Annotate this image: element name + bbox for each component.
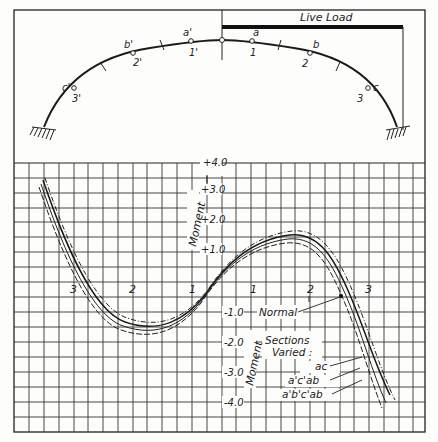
legend-a-prime-c-prime-ab-label: a'c'ab	[288, 374, 319, 386]
label-b: b	[313, 39, 319, 50]
section-label-2-right: 2	[307, 283, 314, 296]
point-b-prime	[131, 51, 136, 56]
right-fixed-support-icon	[386, 126, 410, 140]
label-1-prime: 1'	[189, 47, 198, 58]
legend-normal-label: Normal	[259, 306, 297, 318]
label-2-prime: 2'	[133, 57, 142, 68]
arch-curve	[44, 40, 397, 127]
label-b-prime: b'	[124, 39, 133, 50]
normal-marker	[339, 294, 343, 298]
live-load-bar	[222, 25, 403, 29]
y-tick-plus-1: +1.0	[201, 244, 225, 255]
label-1: 1	[250, 47, 256, 58]
normal-leader-line	[298, 297, 340, 312]
point-a	[250, 39, 255, 44]
point-c	[366, 86, 371, 91]
diagram-canvas: Live Load a' 1' b' 2' c' 3' a 1 b 2 c 3	[0, 0, 438, 442]
label-3-prime: 3'	[72, 93, 81, 104]
section-label-1-right: 1	[250, 283, 257, 296]
live-load-label: Live Load	[300, 11, 354, 24]
section-label-1-left: 1	[189, 283, 196, 296]
section-label-2-left: 2	[129, 283, 136, 296]
y-tick-minus-1: -1.0	[224, 307, 244, 318]
y-tick-minus-2: -2.0	[224, 337, 244, 348]
moment-curves	[39, 178, 395, 408]
section-label-3-right: 3	[365, 283, 372, 296]
left-fixed-support-icon	[30, 127, 56, 140]
y-tick-plus-4: +4.0	[203, 157, 227, 168]
y-tick-minus-3: -3.0	[224, 367, 244, 378]
label-2: 2	[302, 58, 308, 69]
legend-sections-title: Sections	[265, 334, 310, 346]
point-b	[308, 51, 313, 56]
arch-tick	[100, 62, 106, 71]
moment-grid	[14, 163, 425, 432]
section-label-3-left: 3	[70, 283, 77, 296]
y-tick-plus-3: +3.0	[201, 184, 225, 195]
label-a-prime: a'	[183, 27, 192, 38]
legend-ac-label: ac	[315, 360, 327, 372]
label-a: a	[253, 27, 259, 38]
point-c-prime	[72, 86, 77, 91]
legend-a-prime-b-prime-c-prime-ab-label: a'b'c'ab	[282, 388, 323, 400]
point-a-prime	[189, 39, 194, 44]
arch-moment-diagram: Live Load a' 1' b' 2' c' 3' a 1 b 2 c 3	[0, 0, 438, 442]
y-tick-minus-4: -4.0	[224, 397, 244, 408]
legend-varied-title: Varied :	[272, 346, 312, 358]
crown-hinge	[220, 38, 225, 43]
label-c-prime: c'	[62, 82, 70, 93]
label-c: c	[373, 82, 379, 93]
arch-tick	[336, 62, 340, 71]
arch-panel: Live Load a' 1' b' 2' c' 3' a 1 b 2 c 3	[30, 10, 410, 140]
label-3: 3	[357, 93, 363, 104]
